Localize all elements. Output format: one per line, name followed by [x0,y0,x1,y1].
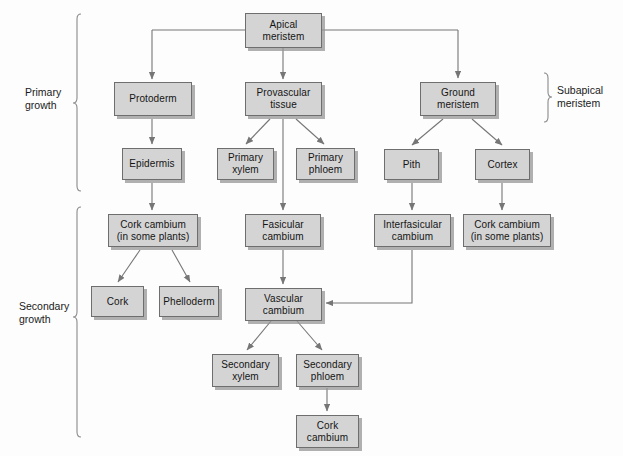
edge-interfasicular-to-vascular-cambium [326,250,412,303]
node-label-epidermis: Epidermis [127,158,176,170]
node-pith[interactable]: Pith [384,149,439,180]
bracket-subapical-meristem [544,73,552,122]
node-label-ground-meristem: Ground meristem [435,87,481,111]
node-label-fasicular-cambium: Fasicular cambium [260,219,305,243]
node-label-secondary-phloem: Secondary phloem [301,359,354,383]
node-primary-phloem[interactable]: Primary phloem [296,148,355,180]
node-vascular-cambium[interactable]: Vascular cambium [245,288,322,321]
node-label-secondary-xylem: Secondary xylem [219,359,272,383]
node-cork-cambium-right[interactable]: Cork cambium (in some plants) [463,214,551,247]
edge-provascular-to-primary-xylem [246,119,270,144]
node-label-cork-cambium-right: Cork cambium (in some plants) [469,219,546,243]
edge-vascular-to-secondary-xylem [247,321,271,350]
edge-cork-cambium-to-phelloderm [172,250,190,282]
bracket-label-subapical-meristem: Subapical meristem [557,84,617,109]
bracket-primary-growth [73,14,81,191]
node-label-phelloderm: Phelloderm [161,296,217,308]
node-label-apical-meristem: Apical meristem [261,19,307,43]
node-label-cork-cambium-bottom: Cork cambium [305,420,350,444]
node-protoderm[interactable]: Protoderm [114,82,192,116]
node-secondary-phloem[interactable]: Secondary phloem [296,354,359,387]
node-cortex[interactable]: Cortex [475,149,530,180]
edge-provascular-to-primary-phloem [296,119,324,144]
edge-cork-cambium-to-cork [118,250,140,282]
node-epidermis[interactable]: Epidermis [122,148,182,180]
node-primary-xylem[interactable]: Primary xylem [217,148,274,180]
node-label-protoderm: Protoderm [127,93,179,105]
node-provascular-tissue[interactable]: Provascular tissue [245,82,322,116]
node-secondary-xylem[interactable]: Secondary xylem [212,354,279,387]
edge-ground-to-cortex [472,119,502,145]
bracket-label-primary-growth: Primary growth [25,86,73,111]
meristem-flowchart: Primary growth Secondary growth Subapica… [0,0,623,456]
node-label-pith: Pith [401,159,423,171]
node-fasicular-cambium[interactable]: Fasicular cambium [245,214,321,247]
node-label-provascular-tissue: Provascular tissue [255,87,313,111]
node-cork[interactable]: Cork [91,286,144,317]
bracket-label-secondary-growth: Secondary growth [19,300,75,325]
node-ground-meristem[interactable]: Ground meristem [420,82,496,116]
node-label-cortex: Cortex [485,159,519,171]
node-phelloderm[interactable]: Phelloderm [159,286,219,317]
node-label-primary-xylem: Primary xylem [226,152,265,176]
node-label-vascular-cambium: Vascular cambium [261,293,306,317]
node-cork-cambium-bottom[interactable]: Cork cambium [296,415,359,448]
node-label-cork: Cork [105,296,131,308]
edge-ground-to-pith [412,119,443,145]
node-apical-meristem[interactable]: Apical meristem [245,13,322,48]
node-interfasicular-cambium[interactable]: Interfasicular cambium [374,214,451,247]
node-cork-cambium-left[interactable]: Cork cambium (in some plants) [108,214,198,247]
node-label-primary-phloem: Primary phloem [306,152,345,176]
node-label-cork-cambium-left: Cork cambium (in some plants) [115,219,192,243]
node-label-interfasicular-cambium: Interfasicular cambium [381,219,444,243]
edge-vascular-to-secondary-phloem [297,321,322,350]
